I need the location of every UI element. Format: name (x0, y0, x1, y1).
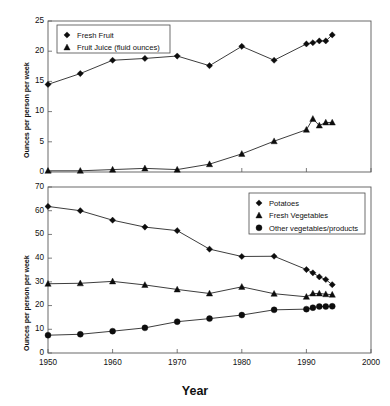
triangle-marker (303, 126, 309, 132)
bottom-chart-panel: Ounces per person per week 0102030405060… (0, 186, 390, 406)
x-tick-label: 1990 (289, 358, 323, 367)
diamond-marker (142, 224, 148, 230)
diamond-marker (45, 203, 51, 209)
legend-label-2: Fruit Juice (fluid ounces) (77, 43, 160, 52)
diamond-marker (310, 270, 316, 276)
circle-marker (316, 304, 322, 310)
diamond-marker (239, 43, 245, 49)
bottom-chart-legend: PotatoesFresh VegetablesOther vegetables… (249, 193, 365, 234)
circle-marker (310, 305, 316, 311)
series-markers-2 (45, 116, 336, 174)
legend-label-1: Fresh Fruit (77, 31, 115, 40)
y-tick-label: 5 (22, 138, 44, 146)
diamond-marker (206, 246, 212, 252)
triangle-marker (142, 165, 148, 171)
y-tick-label: 40 (22, 254, 44, 262)
y-tick-label: 25 (22, 17, 44, 25)
top-chart-plot: Fresh FruitFruit Juice (fluid ounces) (0, 0, 390, 193)
diamond-marker (77, 208, 83, 214)
triangle-marker (239, 284, 245, 290)
diamond-marker (303, 41, 309, 47)
circle-marker (323, 304, 329, 310)
diamond-marker (310, 40, 316, 46)
circle-marker (239, 312, 245, 318)
legend-label-3: Other vegetables/products (269, 224, 358, 233)
diamond-marker (316, 38, 322, 44)
diamond-marker (45, 81, 51, 87)
series-line-3 (48, 306, 332, 335)
y-tick-label: 15 (22, 77, 44, 85)
x-tick-label: 1950 (31, 358, 65, 367)
top-chart-legend: Fresh FruitFruit Juice (fluid ounces) (57, 25, 170, 53)
circle-marker (77, 331, 83, 337)
y-tick-label: 0 (22, 168, 44, 176)
diamond-marker (174, 228, 180, 234)
figure-container: Ounces per person per week 0510152025 Fr… (0, 0, 390, 406)
diamond-marker (316, 274, 322, 280)
y-tick-label: 30 (22, 278, 44, 286)
y-tick-label: 10 (22, 325, 44, 333)
y-tick-label: 20 (22, 47, 44, 55)
circle-marker (142, 325, 148, 331)
circle-marker (303, 306, 309, 312)
circle-marker (110, 328, 116, 334)
legend-label-1: Potatoes (269, 199, 299, 208)
circle-marker (271, 307, 277, 313)
diamond-marker (142, 55, 148, 61)
top-chart-panel: Ounces per person per week 0510152025 Fr… (0, 0, 390, 193)
diamond-marker (110, 57, 116, 63)
diamond-marker (271, 57, 277, 63)
circle-marker (256, 225, 262, 231)
triangle-marker (310, 116, 316, 122)
circle-marker (207, 316, 213, 322)
y-tick-label: 50 (22, 230, 44, 238)
y-tick-label: 20 (22, 301, 44, 309)
y-tick-label: 60 (22, 207, 44, 215)
diamond-marker (239, 253, 245, 259)
triangle-marker (239, 151, 245, 157)
bottom-chart-plot: PotatoesFresh VegetablesOther vegetables… (0, 186, 390, 406)
circle-marker (174, 319, 180, 325)
x-tick-label: 2000 (354, 358, 388, 367)
circle-marker (45, 332, 51, 338)
x-tick-label: 1970 (160, 358, 194, 367)
y-tick-label: 10 (22, 107, 44, 115)
circle-marker (329, 303, 335, 309)
y-tick-label: 0 (22, 349, 44, 357)
diamond-marker (206, 63, 212, 69)
diamond-marker (174, 53, 180, 59)
diamond-marker (77, 70, 83, 76)
diamond-marker (303, 266, 309, 272)
diamond-marker (110, 217, 116, 223)
series-line-2 (48, 119, 332, 171)
x-axis-title: Year (0, 384, 390, 398)
series-line-2 (48, 281, 332, 296)
triangle-marker (109, 278, 115, 284)
legend-label-2: Fresh Vegetables (269, 211, 328, 220)
x-tick-label: 1960 (96, 358, 130, 367)
series-markers-2 (45, 278, 336, 299)
diamond-marker (271, 253, 277, 259)
y-tick-label: 70 (22, 183, 44, 191)
x-tick-label: 1980 (225, 358, 259, 367)
